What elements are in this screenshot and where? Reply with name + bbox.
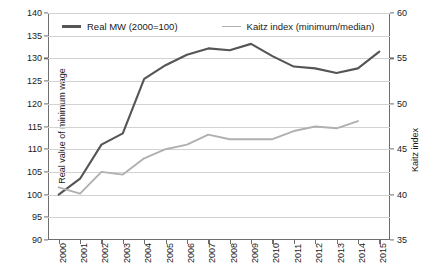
thick-line-swatch-icon — [62, 25, 81, 28]
y-axis-right-tick-label: 40 — [390, 190, 407, 200]
y-axis-left-tick-label: 105 — [27, 167, 48, 177]
y-axis-right-tick-label: 60 — [390, 8, 407, 18]
legend-label-real-mw: Real MW (2000=100) — [87, 21, 178, 32]
x-axis-tick-label: 2003 — [122, 243, 132, 263]
y-axis-left-tick-label: 135 — [27, 31, 48, 41]
x-axis-tick-label: 2006 — [186, 243, 196, 263]
y-axis-right-title: Kaitz index — [410, 128, 420, 172]
y-axis-right-tick-label: 55 — [390, 53, 407, 63]
y-axis-left-tick-label: 140 — [27, 8, 48, 18]
legend-label-kaitz: Kaitz index (minimum/median) — [247, 21, 375, 32]
series-line-kaitz — [59, 121, 358, 194]
y-axis-left-tick-label: 115 — [28, 122, 48, 132]
legend-item-real-mw: Real MW (2000=100) — [62, 21, 178, 32]
chart-container: Real value of minimum wage Kaitz index 9… — [0, 0, 438, 280]
x-axis-tick-label: 2007 — [207, 243, 217, 263]
legend-item-kaitz: Kaitz index (minimum/median) — [222, 21, 375, 32]
series-lines-group — [48, 13, 390, 240]
x-axis-tick-label: 2014 — [357, 243, 367, 263]
plot-area: 9095100105110115120125130135140 35404550… — [48, 13, 390, 240]
x-axis-tick-label: 2002 — [100, 243, 110, 263]
y-axis-left-tick-label: 95 — [32, 212, 48, 222]
y-axis-left-tick-label: 100 — [27, 190, 48, 200]
x-axis-tick-label: 2001 — [79, 243, 89, 263]
y-axis-right-tick-label: 50 — [390, 99, 407, 109]
x-axis-tick-label: 2009 — [250, 243, 260, 263]
y-axis-left-tick-label: 120 — [27, 99, 48, 109]
x-axis-tick-label: 2010 — [271, 243, 281, 263]
x-axis-tick-label: 2013 — [336, 243, 346, 263]
y-axis-left-tick-label: 90 — [32, 235, 48, 245]
y-axis-left-tick-label: 125 — [27, 76, 48, 86]
y-axis-left-tick-label: 130 — [27, 53, 48, 63]
y-axis-right-tick-label: 45 — [390, 144, 407, 154]
x-axis-tick-label: 2008 — [229, 243, 239, 263]
chart-legend: Real MW (2000=100) Kaitz index (minimum/… — [62, 21, 374, 32]
x-axis-tick-label: 2011 — [293, 244, 303, 263]
x-axis-tick-label: 2000 — [58, 243, 68, 263]
x-axis-tick-label: 2015 — [378, 243, 388, 263]
x-axis-tick-label: 2004 — [143, 243, 153, 263]
x-axis-tick-label: 2012 — [314, 243, 324, 263]
y-axis-left-tick-label: 110 — [28, 144, 48, 154]
y-axis-right-tick-label: 35 — [390, 235, 407, 245]
thin-line-swatch-icon — [222, 26, 241, 28]
x-axis-tick-label: 2005 — [165, 243, 175, 263]
